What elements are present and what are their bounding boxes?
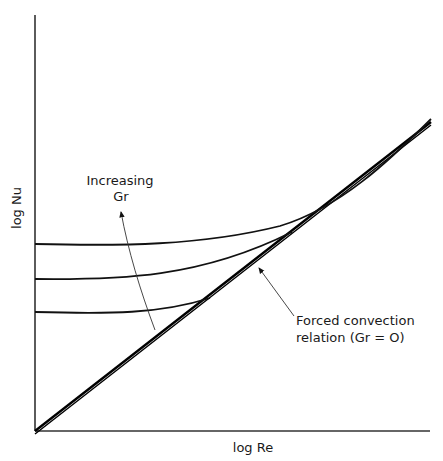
forced-convection-line-double <box>35 125 431 434</box>
curve-gr-low <box>35 298 210 313</box>
curve-gr-medium <box>35 232 292 279</box>
annotation-forced-line2: relation (Gr = O) <box>296 330 405 345</box>
annotation-increasing-line1: Increasing <box>86 173 153 188</box>
annotation-forced-line1: Forced convection <box>296 313 415 328</box>
forced-convection-line <box>35 122 431 431</box>
y-axis-label: log Nu <box>9 187 24 229</box>
x-axis-label: log Re <box>233 440 273 455</box>
forced-convection-leader-arrow <box>259 268 294 316</box>
annotation-increasing-line2: Gr <box>113 189 129 204</box>
nusselt-reynolds-diagram: Increasing Gr Forced convection relation… <box>0 0 443 461</box>
